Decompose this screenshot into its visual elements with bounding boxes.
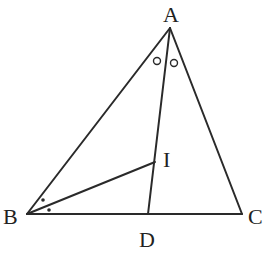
angle-mark-b-lower: [47, 208, 51, 212]
angle-mark-a-right: [171, 60, 178, 67]
angle-mark-b-upper: [41, 198, 45, 202]
label-c: C: [248, 204, 263, 229]
angle-mark-a-left: [154, 58, 161, 65]
segment-ac: [170, 28, 242, 214]
label-b: B: [3, 204, 18, 229]
segment-ab: [27, 28, 170, 214]
segment-ad: [148, 28, 170, 214]
label-d: D: [139, 227, 155, 252]
triangle-diagram: A B C D I: [0, 0, 275, 257]
label-i: I: [163, 147, 170, 172]
label-a: A: [163, 2, 179, 27]
